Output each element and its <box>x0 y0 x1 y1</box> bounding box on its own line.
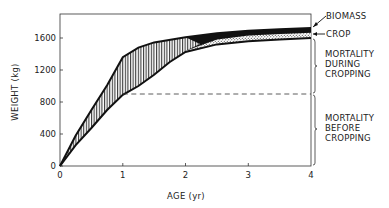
svg-text:BEFORE: BEFORE <box>325 123 360 133</box>
svg-text:MORTALITY: MORTALITY <box>325 113 375 123</box>
x-tick-label: 4 <box>308 170 313 180</box>
mortality-before-bracket <box>313 95 317 165</box>
y-tick-label: 1600 <box>34 33 56 43</box>
svg-text:DURING: DURING <box>325 59 360 69</box>
mortality-during-bracket <box>313 39 317 93</box>
x-tick-label: 2 <box>183 170 188 180</box>
x-tick-label: 1 <box>120 170 125 180</box>
svg-text:CROPPING: CROPPING <box>325 133 371 143</box>
x-tick-label: 3 <box>246 170 251 180</box>
hatched-region <box>60 28 311 166</box>
y-tick-label: 800 <box>40 97 56 107</box>
biomass-label: BIOMASS <box>326 11 366 21</box>
y-tick-label: 400 <box>40 129 56 139</box>
y-axis-label: WEIGHT (kg) <box>10 63 20 120</box>
mortality-during-label: MORTALITY DURING CROPPING <box>325 49 375 79</box>
svg-text:MORTALITY: MORTALITY <box>325 49 375 59</box>
crop-label: CROP <box>326 29 350 39</box>
y-tick-label: 1200 <box>34 65 56 75</box>
y-axis: 0 400 800 1200 1600 <box>34 33 63 171</box>
svg-text:CROPPING: CROPPING <box>325 69 371 79</box>
x-tick-label: 0 <box>57 170 62 180</box>
x-axis-label: AGE (yr) <box>167 191 205 201</box>
y-tick-label: 0 <box>51 161 56 171</box>
x-axis: 0 1 2 3 4 <box>57 163 313 180</box>
mortality-before-label: MORTALITY BEFORE CROPPING <box>325 113 375 143</box>
weight-age-chart: 0 400 800 1200 1600 0 1 2 3 4 WEIGHT (kg… <box>0 0 389 208</box>
